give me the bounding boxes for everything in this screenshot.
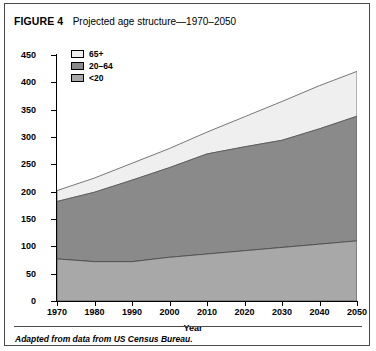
y-axis-tick xyxy=(51,192,56,193)
y-axis-tick xyxy=(51,274,56,275)
legend-swatch-icon xyxy=(71,50,84,58)
y-axis-tick xyxy=(51,164,56,165)
caption-divider xyxy=(14,326,362,327)
stacked-area-chart xyxy=(57,55,357,301)
figure-frame: FIGURE 4 Projected age structure—1970–20… xyxy=(4,3,370,346)
x-axis-tick xyxy=(132,302,133,306)
x-axis-tick-label: 2010 xyxy=(187,308,227,317)
x-axis-title: Year xyxy=(5,323,376,333)
y-axis-tick xyxy=(51,246,56,247)
y-axis-tick xyxy=(51,137,56,138)
figure-header: FIGURE 4 Projected age structure—1970–20… xyxy=(14,11,236,29)
y-axis-tick-label: 150 xyxy=(21,215,36,224)
x-axis-tick-label: 1990 xyxy=(112,308,152,317)
y-axis-tick-label: 400 xyxy=(21,78,36,87)
y-axis-tick xyxy=(51,55,56,56)
figure-title: Projected age structure—1970–2050 xyxy=(73,16,236,27)
legend-item: <20 xyxy=(71,73,113,83)
chart-legend: 65+20–64<20 xyxy=(71,49,113,85)
x-axis-tick-label: 2030 xyxy=(262,308,302,317)
y-axis-tick-label: 450 xyxy=(21,51,36,60)
x-axis-tick xyxy=(207,302,208,306)
y-axis-tick-label: 250 xyxy=(21,160,36,169)
x-axis-tick xyxy=(57,302,58,306)
y-axis-tick-label: 350 xyxy=(21,106,36,115)
y-axis-tick-label: 50 xyxy=(26,270,36,279)
legend-swatch-icon xyxy=(71,62,84,70)
legend-item-label: 65+ xyxy=(89,50,103,59)
legend-item: 20–64 xyxy=(71,61,113,71)
legend-swatch-icon xyxy=(71,74,84,82)
x-axis-tick xyxy=(320,302,321,306)
figure-label: FIGURE 4 xyxy=(14,15,63,27)
x-axis-tick-label: 1970 xyxy=(37,308,77,317)
x-axis-tick-label: 2040 xyxy=(300,308,340,317)
x-axis-tick-label: 2050 xyxy=(337,308,376,317)
x-axis-tick-label: 1980 xyxy=(75,308,115,317)
legend-item-label: 20–64 xyxy=(89,62,113,71)
y-axis-tick xyxy=(51,110,56,111)
y-axis-tick xyxy=(51,301,56,302)
y-axis-tick-label: 100 xyxy=(21,242,36,251)
y-axis-tick-label: 0 xyxy=(31,297,36,306)
chart-plot-area xyxy=(57,55,357,301)
y-axis-tick xyxy=(51,219,56,220)
x-axis-tick-label: 2020 xyxy=(225,308,265,317)
x-axis-tick-label: 2000 xyxy=(150,308,190,317)
x-axis-tick xyxy=(282,302,283,306)
legend-item: 65+ xyxy=(71,49,113,59)
x-axis-tick xyxy=(170,302,171,306)
x-axis-tick xyxy=(95,302,96,306)
y-axis-tick-label: 200 xyxy=(21,188,36,197)
figure-caption: Adapted from data from US Census Bureau. xyxy=(15,334,193,344)
y-axis-tick-label: 300 xyxy=(21,133,36,142)
y-axis-tick xyxy=(51,82,56,83)
legend-item-label: <20 xyxy=(89,74,103,83)
x-axis-tick xyxy=(245,302,246,306)
x-axis-tick xyxy=(357,302,358,306)
